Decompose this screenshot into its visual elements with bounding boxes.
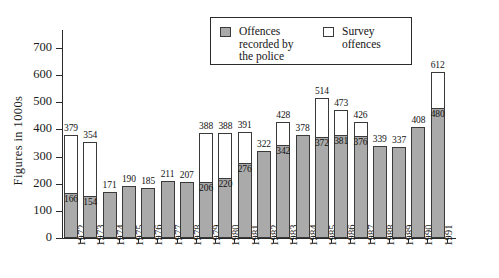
bar-segment-survey[interactable] bbox=[431, 72, 445, 109]
y-axis-tick bbox=[56, 184, 63, 185]
bar-total-label: 612 bbox=[421, 60, 455, 70]
bar-police-label: 372 bbox=[312, 138, 332, 148]
bar-total-label: 473 bbox=[324, 98, 358, 108]
bar-police-label: 206 bbox=[196, 183, 216, 193]
bar-police-label: 276 bbox=[235, 164, 255, 174]
y-axis-tick bbox=[56, 238, 63, 239]
y-axis-tick bbox=[56, 102, 63, 103]
bar-police-label: 220 bbox=[215, 179, 235, 189]
legend-label-survey: Survey offences bbox=[342, 25, 381, 50]
legend-swatch-survey-icon bbox=[323, 27, 334, 37]
legend-item-police: Offences recorded by the police bbox=[220, 25, 294, 63]
x-axis-label: 1991 bbox=[443, 206, 454, 246]
y-axis-tick bbox=[56, 157, 63, 158]
bar-segment-survey[interactable] bbox=[64, 135, 78, 194]
legend-label-police: Offences recorded by the police bbox=[239, 25, 294, 63]
y-axis-tick-label: 100 bbox=[6, 203, 52, 218]
bar-total-label: 514 bbox=[305, 86, 339, 96]
bar-total-label: 391 bbox=[228, 120, 262, 130]
y-axis-tick bbox=[56, 211, 63, 212]
bar-police-label: 342 bbox=[273, 146, 293, 156]
bar-police-label: 480 bbox=[428, 109, 448, 119]
y-axis-tick-label: 700 bbox=[6, 40, 52, 55]
bar-total-label: 428 bbox=[266, 110, 300, 120]
y-axis-tick-label: 600 bbox=[6, 67, 52, 82]
bar-segment-survey[interactable] bbox=[199, 133, 213, 183]
y-axis-line bbox=[62, 30, 63, 238]
bar-segment-survey[interactable] bbox=[218, 133, 232, 180]
y-axis-tick-label: 300 bbox=[6, 149, 52, 164]
y-axis-tick-label: 0 bbox=[6, 230, 52, 245]
y-axis-tick bbox=[56, 75, 63, 76]
bar-total-label: 426 bbox=[344, 110, 378, 120]
y-axis-tick-label: 200 bbox=[6, 176, 52, 191]
y-axis-tick-label: 500 bbox=[6, 94, 52, 109]
bar-police-label: 381 bbox=[331, 136, 351, 146]
legend: Offences recorded by the police Survey o… bbox=[210, 17, 412, 65]
legend-swatch-police-icon bbox=[220, 27, 231, 37]
legend-item-survey: Survey offences bbox=[323, 25, 381, 50]
bar-police-label: 166 bbox=[61, 194, 81, 204]
y-axis-tick-label: 400 bbox=[6, 121, 52, 136]
y-axis-tick bbox=[56, 48, 63, 49]
y-axis-title: Figures in 1000s bbox=[11, 61, 26, 221]
bar-total-label: 354 bbox=[73, 130, 107, 140]
chart-figure: Figures in 1000s 0100200300400500600700 … bbox=[0, 0, 499, 278]
